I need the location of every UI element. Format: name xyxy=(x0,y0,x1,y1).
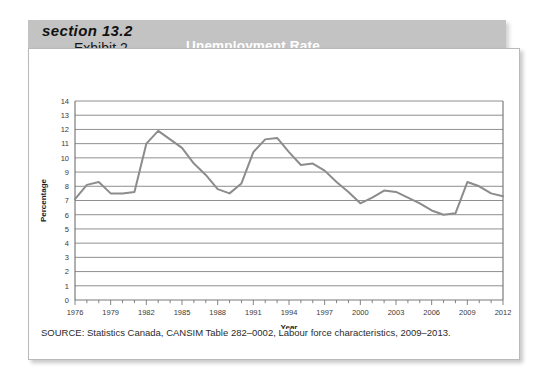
x-axis-tick-label: 2003 xyxy=(388,308,405,317)
y-axis-tick-label: 7 xyxy=(65,196,69,205)
exhibit-root: section 13.2 Exhibit 2 Unemployment Rate… xyxy=(0,0,554,383)
y-axis-title: Percentage xyxy=(39,178,48,222)
x-axis-tick-label: 2009 xyxy=(459,308,476,317)
x-axis-tick-label: 1988 xyxy=(209,308,226,317)
unemployment-rate-line-chart: 0123456789101112131419761979198219851988… xyxy=(29,49,521,329)
y-axis-tick-label: 1 xyxy=(65,282,69,291)
y-axis-tick-label: 14 xyxy=(61,97,69,106)
section-label: section 13.2 xyxy=(42,22,133,39)
y-axis-tick-label: 13 xyxy=(61,111,69,120)
source-note: SOURCE: Statistics Canada, CANSIM Table … xyxy=(41,327,451,338)
exhibit-card: 0123456789101112131419761979198219851988… xyxy=(28,48,520,360)
x-axis-tick-label: 1994 xyxy=(281,308,298,317)
x-axis-tick-label: 1976 xyxy=(67,308,84,317)
y-axis-tick-label: 8 xyxy=(65,182,69,191)
x-axis-tick-label: 2012 xyxy=(495,308,512,317)
y-axis-tick-label: 4 xyxy=(65,239,69,248)
y-axis-tick-label: 12 xyxy=(61,125,69,134)
y-axis-tick-label: 3 xyxy=(65,253,69,262)
y-axis-tick-label: 0 xyxy=(65,296,69,305)
x-axis-tick-label: 1997 xyxy=(316,308,333,317)
x-axis-tick-label: 2000 xyxy=(352,308,369,317)
x-axis-tick-label: 1991 xyxy=(245,308,262,317)
y-axis-tick-label: 5 xyxy=(65,225,69,234)
x-axis-tick-label: 1982 xyxy=(138,308,155,317)
x-axis-tick-label: 2006 xyxy=(423,308,440,317)
y-axis-tick-label: 2 xyxy=(65,267,69,276)
x-axis-tick-label: 1979 xyxy=(102,308,119,317)
chart-plot-area: 0123456789101112131419761979198219851988… xyxy=(29,49,521,361)
y-axis-tick-label: 10 xyxy=(61,154,69,163)
y-axis-tick-label: 9 xyxy=(65,168,69,177)
y-axis-tick-label: 6 xyxy=(65,211,69,220)
y-axis-tick-label: 11 xyxy=(61,139,69,148)
x-axis-tick-label: 1985 xyxy=(174,308,191,317)
